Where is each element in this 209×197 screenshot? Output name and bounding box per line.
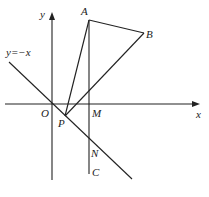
point-A-label: A — [80, 5, 88, 17]
y-axis-label: y — [39, 8, 45, 20]
diagram-svg: y x O y=−x A B M P N C — [0, 0, 209, 197]
segment-AP — [65, 20, 89, 116]
x-axis-arrow-icon — [192, 101, 200, 107]
line-y-equals-neg-x — [9, 62, 132, 179]
point-B-label: B — [146, 28, 153, 40]
point-C-label: C — [92, 166, 100, 178]
point-M-label: M — [91, 107, 102, 119]
point-P-label: P — [57, 117, 65, 129]
line-equation-label: y=−x — [5, 46, 31, 58]
x-axis-label: x — [195, 108, 201, 120]
origin-label: O — [41, 107, 49, 119]
segment-AB — [89, 20, 144, 33]
geometry-diagram: y x O y=−x A B M P N C — [0, 0, 209, 197]
y-axis-arrow-icon — [49, 12, 55, 20]
point-N-label: N — [90, 147, 99, 159]
